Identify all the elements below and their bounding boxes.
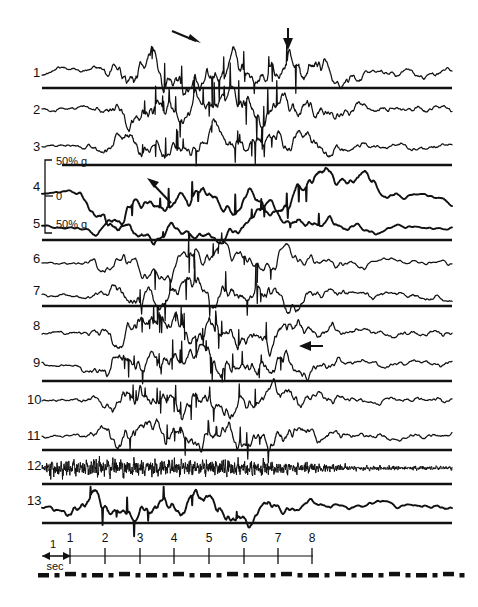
timing-marker-dash	[190, 573, 195, 578]
timing-marker-dash	[443, 572, 454, 577]
timing-marker-dash	[244, 573, 249, 578]
timing-marker-dash	[136, 573, 141, 578]
channel-label-6: 6	[33, 251, 40, 266]
scale-label-bottom: 50% g	[56, 218, 87, 230]
scale-label-top: 50% g	[56, 155, 87, 167]
channel-label-9: 9	[33, 355, 40, 370]
timing-marker-dash	[352, 573, 357, 578]
scale-label-zero: 0	[56, 190, 62, 202]
timing-marker-dash	[55, 573, 60, 578]
timing-marker-dash	[38, 573, 49, 578]
timing-marker-dash	[406, 573, 411, 578]
timing-marker-dash	[254, 573, 265, 578]
recording-canvas: 1 2 3 4 5 6 7 8 9 10 11 12 13	[0, 0, 478, 607]
timing-marker-dash	[389, 572, 400, 577]
channel-label-3: 3	[33, 139, 40, 154]
timing-marker-dash	[281, 572, 292, 577]
timing-marker-dash	[325, 573, 330, 578]
timing-marker-dash	[92, 573, 103, 578]
timing-marker-dash	[119, 572, 130, 577]
time-tick-label-3: 3	[137, 531, 144, 545]
timing-marker-dash	[433, 573, 438, 578]
channel-label-2: 2	[33, 102, 40, 117]
timing-marker-dash	[146, 573, 157, 578]
time-tick-label-5: 5	[206, 531, 213, 545]
timing-marker-dash	[298, 573, 303, 578]
timing-marker-dash	[82, 573, 87, 578]
timing-marker-dash	[200, 573, 211, 578]
channel-label-1: 1	[33, 65, 40, 80]
channel-label-8: 8	[33, 318, 40, 333]
timing-marker-dash	[416, 573, 427, 578]
timing-marker-dash	[65, 572, 76, 577]
channel-label-12: 12	[27, 458, 41, 473]
time-tick-label-2: 2	[102, 531, 109, 545]
time-tick-label-7: 7	[275, 531, 282, 545]
timing-marker-dash	[379, 573, 384, 578]
timing-marker-dash	[362, 573, 373, 578]
timing-marker-dash	[271, 573, 276, 578]
timing-marker-dash	[217, 573, 222, 578]
timing-marker-dash	[460, 573, 465, 578]
channel-label-7: 7	[33, 283, 40, 298]
time-tick-label-4: 4	[171, 531, 178, 545]
timing-marker-dash	[109, 573, 114, 578]
channel-label-11: 11	[27, 428, 41, 443]
one-second-value: 1	[50, 538, 56, 550]
timing-marker-dash	[308, 573, 319, 578]
time-tick-label-8: 8	[309, 531, 316, 545]
one-second-unit: sec	[46, 560, 64, 572]
timing-marker-dash	[335, 572, 346, 577]
time-tick-label-1: 1	[67, 531, 74, 545]
channel-label-5: 5	[33, 216, 40, 231]
timing-marker-dash	[227, 572, 238, 577]
time-tick-label-6: 6	[241, 531, 248, 545]
polygraph-figure: 1 2 3 4 5 6 7 8 9 10 11 12 13	[0, 0, 478, 607]
channel-label-10: 10	[27, 392, 41, 407]
timing-marker-dash	[163, 573, 168, 578]
channel-label-4: 4	[33, 179, 40, 194]
timing-marker-dash	[173, 572, 184, 577]
channel-label-13: 13	[27, 493, 41, 508]
